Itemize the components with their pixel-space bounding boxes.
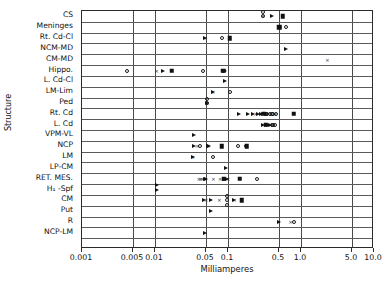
data-point-x	[205, 144, 210, 149]
data-point-circle	[225, 203, 229, 207]
horizontal-gridline	[82, 98, 372, 99]
y-axis-category-label: NCP	[57, 141, 73, 149]
data-point-x	[190, 155, 195, 160]
data-point-x	[226, 176, 231, 181]
horizontal-gridline	[82, 87, 372, 88]
data-point-x	[211, 176, 216, 181]
x-axis-tick-mark	[351, 248, 352, 252]
data-point-x	[288, 219, 293, 224]
data-point-triangle	[203, 231, 207, 235]
data-point-circle	[125, 69, 129, 73]
horizontal-gridline	[82, 173, 372, 174]
data-point-triangle	[192, 133, 196, 137]
x-axis-tick-mark	[132, 248, 133, 252]
horizontal-gridline	[82, 217, 372, 218]
data-point-triangle	[277, 220, 281, 224]
vertical-gridline	[301, 11, 302, 247]
data-point-triangle	[237, 112, 241, 116]
horizontal-gridline	[82, 141, 372, 142]
data-point-x	[218, 176, 223, 181]
horizontal-gridline	[82, 54, 372, 55]
data-point-circle	[255, 177, 259, 181]
data-point-x	[221, 68, 226, 73]
x-axis-tick-label: 0.5	[272, 253, 284, 262]
horizontal-gridline	[82, 227, 372, 228]
y-axis-labels: CSMeningesRt. Cd-ClNCM-MDCM-MDHippo.L. C…	[0, 10, 78, 248]
y-axis-category-label: CM-MD	[46, 55, 73, 63]
x-axis-tick-label: 0.005	[121, 253, 143, 262]
data-point-x	[260, 14, 265, 19]
y-axis-category-label: Meninges	[37, 22, 73, 30]
data-point-triangle	[270, 14, 274, 18]
data-point-x	[270, 122, 275, 127]
data-point-triangle	[155, 188, 159, 192]
data-point-x	[210, 90, 215, 95]
data-point-circle	[225, 194, 229, 198]
data-point-x	[205, 100, 210, 105]
data-point-square	[277, 25, 282, 30]
horizontal-gridline	[82, 130, 372, 131]
x-axis-tick-mark	[278, 248, 279, 252]
data-point-circle	[211, 155, 215, 159]
vertical-gridline	[228, 11, 229, 247]
data-point-circle	[220, 36, 224, 40]
data-point-triangle	[155, 183, 159, 187]
y-axis-category-label: LM-Lim	[46, 87, 73, 95]
data-point-x	[195, 144, 200, 149]
vertical-gridline	[352, 11, 353, 247]
x-axis-tick-label: 0.1	[221, 253, 233, 262]
horizontal-gridline	[82, 33, 372, 34]
data-point-triangle	[209, 209, 213, 213]
horizontal-gridline	[82, 162, 372, 163]
horizontal-gridline	[82, 184, 372, 185]
data-point-x	[217, 198, 222, 203]
data-point-square	[170, 68, 175, 73]
data-point-x	[266, 111, 271, 116]
data-point-triangle	[223, 79, 227, 83]
data-point-square	[280, 14, 285, 19]
x-axis-title: Milliamperes	[81, 264, 373, 274]
data-point-x	[253, 111, 258, 116]
data-point-square	[244, 144, 249, 149]
y-axis-category-label: CS	[63, 11, 73, 19]
data-point-x	[232, 198, 237, 203]
chart-figure: Structure CSMeningesRt. Cd-ClNCM-MDCM-MD…	[0, 0, 384, 286]
data-point-square	[227, 36, 232, 41]
data-point-circle	[201, 69, 205, 73]
vertical-gridline	[155, 11, 156, 247]
data-point-x	[199, 176, 204, 181]
y-axis-category-label: RET. MES.	[36, 174, 73, 182]
x-axis-tick-label: 10.0	[364, 253, 381, 262]
data-point-triangle	[209, 198, 213, 202]
x-axis-tick-label: 0.05	[196, 253, 213, 262]
data-point-circle	[236, 144, 240, 148]
y-axis-category-label: LM	[62, 152, 73, 160]
data-point-triangle	[224, 166, 228, 170]
y-axis-category-label: Rt. Cd-Cl	[40, 33, 73, 41]
horizontal-gridline	[82, 238, 372, 239]
y-axis-category-label: LP-CM	[50, 163, 73, 171]
x-axis-tick-mark	[300, 248, 301, 252]
y-axis-category-label: VPM-VL	[45, 130, 73, 138]
x-axis-tick-mark	[154, 248, 155, 252]
vertical-gridline	[206, 11, 207, 247]
horizontal-gridline	[82, 43, 372, 44]
data-point-square	[219, 144, 224, 149]
horizontal-gridline	[82, 152, 372, 153]
horizontal-gridline	[82, 76, 372, 77]
data-point-x	[154, 68, 159, 73]
x-axis-tick-label: 0.001	[70, 253, 92, 262]
y-axis-category-label: Ped	[59, 98, 73, 106]
x-axis-tick-label: 0.01	[145, 253, 162, 262]
data-point-square	[240, 198, 245, 203]
horizontal-gridline	[82, 22, 372, 23]
y-axis-category-label: Rt. Cd	[50, 109, 73, 117]
y-axis-category-label: CM	[61, 195, 73, 203]
data-point-x	[325, 57, 330, 62]
data-point-circle	[228, 90, 232, 94]
data-point-triangle	[246, 112, 250, 116]
data-point-circle	[284, 25, 288, 29]
horizontal-gridline	[82, 108, 372, 109]
y-axis-category-label: NCM-MD	[40, 44, 73, 52]
data-point-x	[204, 198, 209, 203]
